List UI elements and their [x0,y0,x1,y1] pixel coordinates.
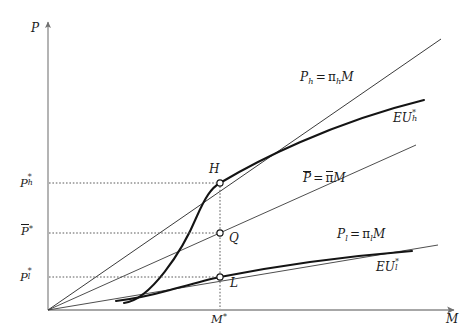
figure-canvas: P M P*h P* P*l M* H Q L Ph=πhM EU*h P=πM… [0,0,474,335]
y-tick-p-h-star: P*h [20,175,34,189]
y-axis-label: P [31,22,39,34]
point-H[interactable] [217,180,223,186]
curve-label-p-bar-line: P=πM [303,172,346,184]
y-tick-p-l-star: P*l [20,269,34,283]
point-label-H: H [209,163,219,175]
point-Q[interactable] [217,230,223,236]
point-label-Q: Q [229,232,239,244]
x-tick-m-star: M* [211,313,227,325]
point-label-L: L [230,277,238,289]
curve-label-p-l-line: Pl=πlM [337,228,385,242]
x-axis-label: M [446,313,458,325]
y-tick-p-bar-star: P* [21,225,33,237]
curve-label-eu-h-star: EU*h [393,110,418,124]
curve-label-eu-l-star: EU*l [376,259,401,273]
point-L[interactable] [217,274,223,280]
curve-label-p-h-line: Ph=πhM [300,71,353,85]
